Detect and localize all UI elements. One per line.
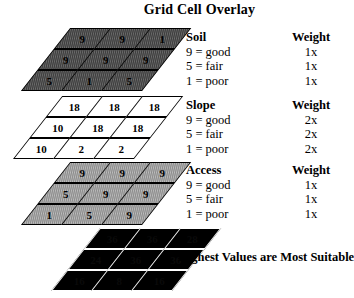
legend-row: 5 = fair 2x	[186, 127, 346, 141]
legend-header: Slope Weight	[186, 98, 346, 112]
grid-row: 10 18 18	[30, 117, 169, 138]
grid-row: 9 9 9	[38, 49, 177, 70]
legend-row-label: 5 = fair	[186, 192, 276, 206]
legend-row-weight: 1x	[276, 45, 346, 59]
grid-layer-access: 9 9 9 5 9 9 1 5 9	[22, 162, 194, 225]
grid-row: 36 36 28	[85, 228, 224, 249]
grid-row: 9 9 9	[55, 162, 194, 183]
grid-row: 5 9 9	[38, 183, 177, 204]
legend-row-label: 9 = good	[186, 113, 276, 127]
legend-criterion-title: Slope	[186, 98, 276, 112]
grid-layer-soil: 9 9 1 9 9 9 5 1 5	[22, 28, 194, 91]
legend-criterion-title: Soil	[186, 30, 276, 44]
legend-row-weight: 2x	[276, 142, 346, 156]
result-caption: Highest Values are Most Suitable	[178, 250, 354, 265]
legend-row-weight: 1x	[276, 192, 346, 206]
layer-stack: 9 9 1 9 9 9 5 1 5 18 18 18 10 18 18 10 2	[0, 0, 200, 298]
legend-row-label: 1 = poor	[186, 74, 276, 88]
legend-soil: Soil Weight 9 = good 1x 5 = fair 1x 1 = …	[186, 30, 346, 88]
legend-access: Access Weight 9 = good 1x 5 = fair 1x 1 …	[186, 163, 346, 221]
legend-row: 1 = poor 1x	[186, 207, 346, 221]
grid-row: 16 8 16	[52, 270, 191, 291]
legend-row-weight: 1x	[276, 207, 346, 221]
legend-row-weight: 1x	[276, 59, 346, 73]
legend-weight-title: Weight	[276, 30, 346, 44]
legend-row-weight: 2x	[276, 113, 346, 127]
legend-row: 9 = good 2x	[186, 113, 346, 127]
legend-row-label: 9 = good	[186, 45, 276, 59]
legend-weight-title: Weight	[276, 98, 346, 112]
legend-row: 9 = good 1x	[186, 178, 346, 192]
legend-header: Access Weight	[186, 163, 346, 177]
legend-row-weight: 2x	[276, 127, 346, 141]
grid-row: 10 2 2	[14, 138, 153, 159]
legend-row: 9 = good 1x	[186, 45, 346, 59]
legend-row-label: 1 = poor	[186, 207, 276, 221]
legend-slope: Slope Weight 9 = good 2x 5 = fair 2x 1 =…	[186, 98, 346, 156]
legend-criterion-title: Access	[186, 163, 276, 177]
legend-row-label: 1 = poor	[186, 142, 276, 156]
grid-layer-slope: 18 18 18 10 18 18 10 2 2	[14, 96, 186, 159]
grid-row: 9 9 1	[55, 28, 194, 49]
legend-row: 1 = poor 2x	[186, 142, 346, 156]
legend-row-weight: 1x	[276, 74, 346, 88]
legend-row-label: 9 = good	[186, 178, 276, 192]
legend-weight-title: Weight	[276, 163, 346, 177]
legend-row-label: 5 = fair	[186, 59, 276, 73]
legend-row-weight: 1x	[276, 178, 346, 192]
legend-row-label: 5 = fair	[186, 127, 276, 141]
legend-header: Soil Weight	[186, 30, 346, 44]
grid-row: 18 18 18	[47, 96, 186, 117]
legend-row: 5 = fair 1x	[186, 59, 346, 73]
grid-row: 1 5 9	[22, 204, 161, 225]
legend-row: 1 = poor 1x	[186, 74, 346, 88]
grid-row: 5 1 5	[22, 70, 161, 91]
legend-row: 5 = fair 1x	[186, 192, 346, 206]
